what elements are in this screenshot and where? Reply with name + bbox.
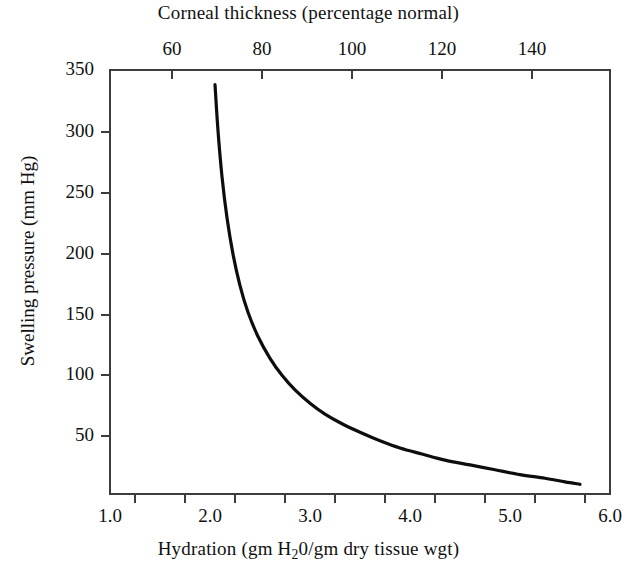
data-curve	[215, 85, 580, 485]
top-tick-label-100: 100	[322, 38, 382, 60]
y-tick-label-200: 200	[42, 242, 94, 264]
top-tick-label-140: 140	[502, 38, 562, 60]
top-axis-ticks	[172, 70, 532, 79]
y-axis-ticks	[101, 132, 110, 436]
bottom-tick-label-1: 1.0	[80, 505, 140, 527]
bottom-tick-label-2: 2.0	[180, 505, 240, 527]
y-tick-label-250: 250	[42, 181, 94, 203]
top-tick-label-60: 60	[142, 38, 202, 60]
bottom-tick-label-3: 3.0	[280, 505, 340, 527]
bottom-tick-label-6: 6.0	[580, 505, 626, 527]
y-tick-label-150: 150	[42, 303, 94, 325]
bottom-tick-label-4: 4.0	[380, 505, 440, 527]
bottom-axis-ticks	[135, 494, 585, 503]
y-tick-label-300: 300	[42, 120, 94, 142]
y-tick-label-50: 50	[42, 424, 94, 446]
top-tick-label-80: 80	[232, 38, 292, 60]
top-tick-label-120: 120	[412, 38, 472, 60]
y-tick-label-100: 100	[42, 363, 94, 385]
bottom-tick-label-5: 5.0	[480, 505, 540, 527]
axes-frame	[110, 70, 610, 494]
y-tick-label-350: 350	[42, 58, 94, 80]
